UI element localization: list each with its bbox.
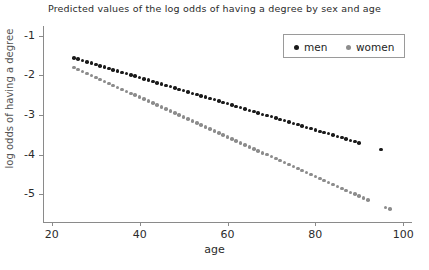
data-point-women (133, 93, 137, 97)
data-point-men (287, 120, 291, 124)
data-point-men (151, 80, 155, 84)
data-point-men (90, 61, 94, 65)
data-point-women (138, 95, 142, 99)
data-point-men (230, 103, 234, 107)
legend-entry-women[interactable]: women (346, 35, 394, 59)
x-tick-label: 40 (120, 228, 160, 241)
data-point-men (349, 139, 353, 143)
data-point-men (160, 82, 164, 86)
chart-legend: men women (283, 34, 405, 58)
data-point-men (305, 126, 309, 130)
legend-entry-men[interactable]: men (294, 35, 327, 59)
data-point-women (292, 165, 296, 169)
data-point-men (252, 110, 256, 114)
data-point-men (261, 113, 265, 117)
data-point-women (217, 131, 221, 135)
data-point-women (344, 189, 348, 193)
data-point-women (204, 125, 208, 129)
data-point-women (94, 76, 98, 80)
data-point-women (169, 109, 173, 113)
legend-dot-women (346, 45, 351, 50)
data-point-men (85, 60, 89, 64)
data-point-men (182, 89, 186, 93)
data-point-men (147, 78, 151, 82)
data-point-men (129, 73, 133, 77)
data-point-women (256, 149, 260, 153)
data-point-men (226, 102, 230, 106)
data-point-women (388, 207, 392, 211)
data-point-men (98, 64, 102, 68)
data-point-men (103, 65, 107, 69)
data-point-women (177, 113, 181, 117)
data-point-men (296, 123, 300, 127)
data-point-women (243, 143, 247, 147)
data-point-women (234, 139, 238, 143)
data-point-women (151, 101, 155, 105)
data-point-women (287, 163, 291, 167)
data-point-men (164, 84, 168, 88)
data-point-men (195, 93, 199, 97)
data-point-women (182, 115, 186, 119)
data-point-women (191, 119, 195, 123)
data-point-men (379, 148, 383, 152)
data-point-men (94, 63, 98, 67)
data-point-men (239, 106, 243, 110)
data-point-men (331, 133, 335, 137)
legend-label-men: men (304, 41, 327, 53)
data-point-women (270, 155, 274, 159)
data-point-women (314, 175, 318, 179)
x-tick (52, 222, 53, 226)
data-point-men (142, 77, 146, 81)
data-point-women (72, 66, 76, 70)
y-tick-label: -5 (9, 187, 35, 200)
x-tick (140, 222, 141, 226)
x-tick-label: 20 (32, 228, 72, 241)
chart-figure: Predicted values of the log odds of havi… (0, 0, 429, 270)
x-tick (228, 222, 229, 226)
data-point-men (81, 59, 85, 63)
data-point-men (199, 94, 203, 98)
data-point-women (147, 99, 151, 103)
data-point-men (256, 111, 260, 115)
chart-title: Predicted values of the log odds of havi… (0, 3, 429, 14)
data-point-men (72, 56, 76, 60)
x-axis-label: age (0, 243, 429, 256)
x-tick (315, 222, 316, 226)
data-point-women (76, 68, 80, 72)
data-point-men (274, 116, 278, 120)
data-point-women (261, 151, 265, 155)
data-point-women (300, 169, 304, 173)
x-tick-label: 100 (383, 228, 423, 241)
data-point-men (243, 107, 247, 111)
data-point-women (116, 86, 120, 90)
data-point-men (186, 90, 190, 94)
data-point-women (340, 187, 344, 191)
data-point-men (204, 95, 208, 99)
data-point-men (234, 105, 238, 109)
data-point-men (125, 72, 129, 76)
data-point-men (270, 115, 274, 119)
data-point-women (384, 206, 388, 210)
data-point-women (366, 198, 370, 202)
data-point-men (278, 118, 282, 122)
data-point-women (265, 153, 269, 157)
data-point-men (76, 57, 80, 61)
data-point-men (344, 137, 348, 141)
data-point-men (309, 127, 313, 131)
data-point-men (217, 99, 221, 103)
data-point-men (340, 136, 344, 140)
data-point-women (85, 72, 89, 76)
data-point-women (327, 181, 331, 185)
x-tick-label: 80 (295, 228, 335, 241)
data-point-women (81, 70, 85, 74)
data-point-women (230, 137, 234, 141)
data-point-women (322, 179, 326, 183)
data-point-women (103, 80, 107, 84)
data-point-women (98, 78, 102, 82)
data-point-women (186, 117, 190, 121)
data-point-women (199, 123, 203, 127)
data-point-women (362, 196, 366, 200)
data-point-men (213, 98, 217, 102)
x-tick-label: 60 (208, 228, 248, 241)
data-point-women (90, 74, 94, 78)
